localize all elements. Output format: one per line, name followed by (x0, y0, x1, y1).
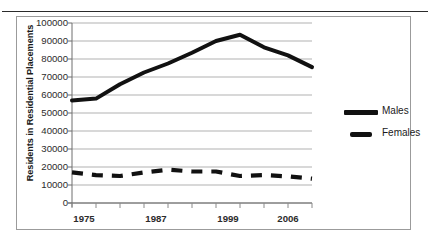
chart-legend: MalesFemales (344, 104, 430, 148)
legend-swatch-females (350, 132, 372, 137)
x-tick-label: 2006 (268, 214, 308, 224)
x-tick-label: 1987 (136, 214, 176, 224)
legend-label-females: Females (382, 127, 420, 138)
x-tick-label: 1999 (208, 214, 248, 224)
legend-item-females[interactable]: Females (344, 126, 430, 148)
legend-label-males: Males (382, 105, 409, 116)
series-line-males (72, 35, 312, 101)
series-line-females (72, 170, 312, 179)
legend-swatch-males (344, 110, 378, 115)
line-chart: Residents in Residential Placements 0100… (0, 0, 430, 248)
x-tick-label: 1975 (64, 214, 104, 224)
legend-item-males[interactable]: Males (344, 104, 430, 126)
